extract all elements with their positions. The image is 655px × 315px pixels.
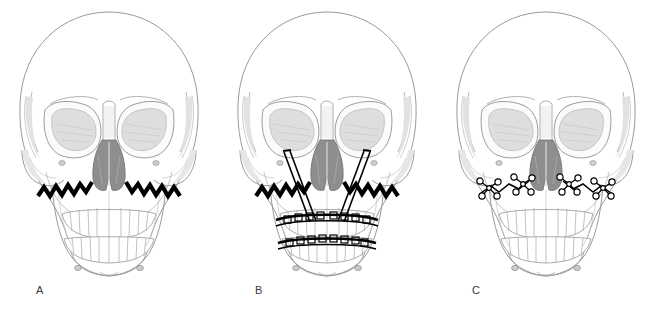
- panel-c: [437, 0, 655, 315]
- skull-illustration-c: [457, 12, 635, 276]
- skull-illustration-a: [20, 12, 198, 276]
- panel-b: [218, 0, 436, 315]
- skull-illustration-b: [238, 12, 416, 276]
- panel-label-c: C: [472, 285, 480, 296]
- panel-label-a: A: [36, 285, 44, 296]
- panel-label-b: B: [255, 285, 263, 296]
- figure-container: A: [0, 0, 655, 315]
- panel-a: [0, 0, 218, 315]
